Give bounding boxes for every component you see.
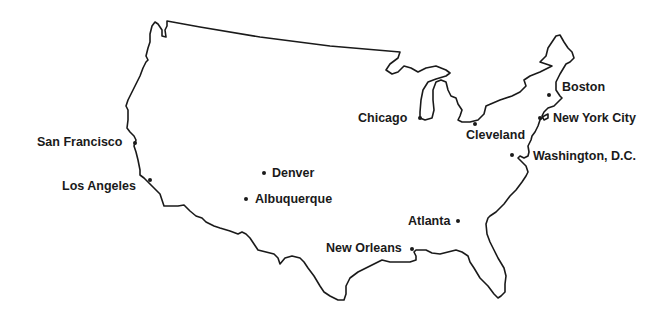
city-dot-new-york-city xyxy=(538,116,542,120)
city-label-los-angeles: Los Angeles xyxy=(62,180,136,193)
city-dot-san-francisco xyxy=(133,141,137,145)
city-label-new-york-city: New York City xyxy=(553,112,636,125)
city-dot-new-orleans xyxy=(410,247,414,251)
city-dot-albuquerque xyxy=(244,197,248,201)
city-label-atlanta: Atlanta xyxy=(408,215,450,228)
city-dot-boston xyxy=(547,93,551,97)
city-label-boston: Boston xyxy=(562,81,605,94)
city-label-san-francisco: San Francisco xyxy=(37,136,122,149)
city-dot-los-angeles xyxy=(148,178,152,182)
city-label-denver: Denver xyxy=(272,167,314,180)
city-label-washington-dc: Washington, D.C. xyxy=(533,150,636,163)
city-dot-atlanta xyxy=(456,219,460,223)
city-label-new-orleans: New Orleans xyxy=(326,242,402,255)
city-label-chicago: Chicago xyxy=(358,112,407,125)
city-dot-denver xyxy=(262,171,266,175)
city-label-cleveland: Cleveland xyxy=(466,129,525,142)
city-dot-washington-dc xyxy=(510,153,514,157)
city-dot-cleveland xyxy=(473,122,477,126)
city-dot-chicago xyxy=(418,116,422,120)
city-label-albuquerque: Albuquerque xyxy=(255,193,332,206)
us-outline xyxy=(126,21,574,300)
